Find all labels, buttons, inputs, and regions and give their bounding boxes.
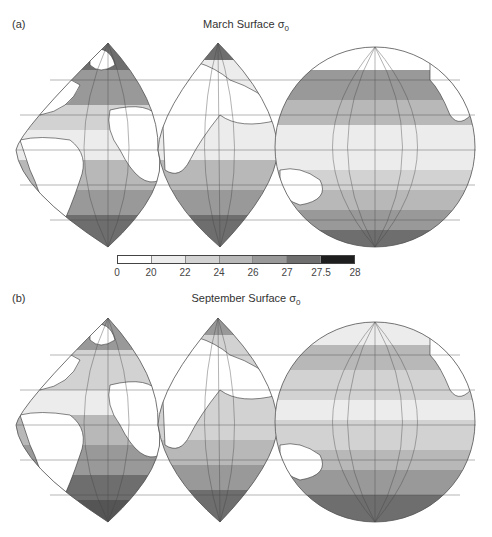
colorbar-bin-7 [321, 256, 354, 263]
colorbar [117, 255, 355, 264]
colorbar-bin-2 [152, 256, 186, 263]
panel-title-a: March Surface σ0 [0, 18, 492, 33]
panel-title-text-b: September Surface σ [191, 292, 296, 304]
tick-label: 28 [349, 267, 360, 278]
panel-title-sub-a: 0 [284, 24, 288, 33]
colorbar-bin-5 [253, 256, 287, 263]
map-march [0, 40, 492, 250]
colorbar-ticks: 0 20 22 24 26 27 27.5 28 [117, 267, 355, 279]
indian-lobe-march [150, 40, 290, 250]
colorbar-bin-6 [287, 256, 321, 263]
panel-title-text-a: March Surface σ [203, 18, 284, 30]
tick-label: 0 [114, 267, 120, 278]
colorbar-bin-3 [186, 256, 220, 263]
panel-title-sub-b: 0 [296, 298, 300, 307]
tick-label: 22 [179, 267, 190, 278]
tick-label: 20 [145, 267, 156, 278]
colorbar-bin-1 [118, 256, 152, 263]
tick-label: 27 [281, 267, 292, 278]
indian-lobe-september [150, 315, 290, 525]
tick-label: 26 [247, 267, 258, 278]
tick-label: 24 [213, 267, 224, 278]
map-september [0, 315, 492, 525]
colorbar-bin-4 [220, 256, 254, 263]
panel-title-b: September Surface σ0 [0, 292, 492, 307]
tick-label: 27.5 [311, 267, 330, 278]
